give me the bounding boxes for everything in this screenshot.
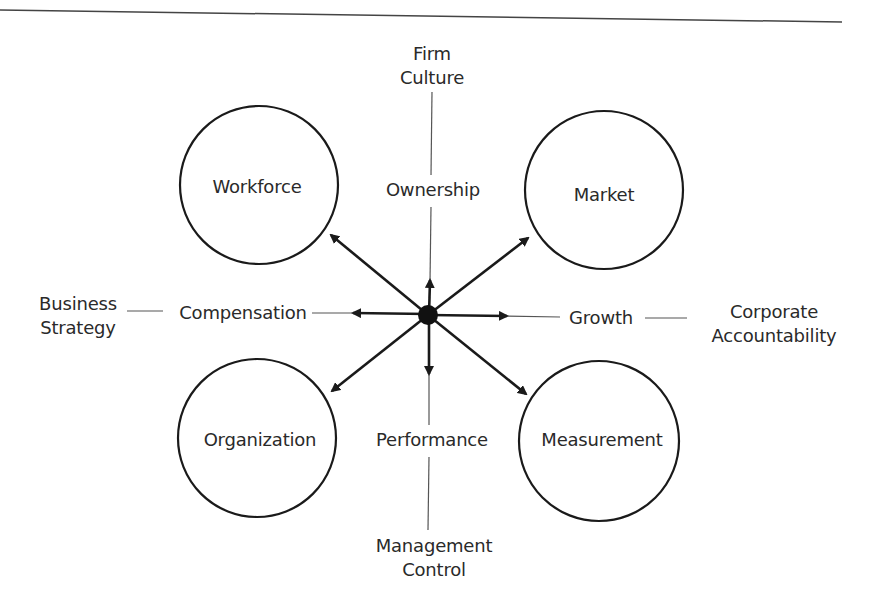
label-compensation: Compensation [179,301,307,325]
label-ownership: Ownership [386,178,480,202]
top-rule [0,10,842,22]
label-market: Market [574,183,635,207]
arrow-left [353,313,428,314]
label-firm-culture-line1: Firm [400,42,464,66]
center-hub [418,305,438,325]
label-workforce: Workforce [212,175,301,199]
label-growth: Growth [569,306,633,330]
label-organization: Organization [204,428,317,452]
label-management-control-line1: Management [376,534,493,558]
label-business-strategy-line1: Business [39,292,117,316]
label-business-strategy: Business Strategy [39,292,117,340]
label-corporate-accountability-line2: Accountability [711,324,836,348]
arrow-up-right [428,238,528,315]
arrow-down-right [428,315,526,394]
connector-performance-control [428,457,429,530]
connector-culture-ownership [431,92,432,175]
label-firm-culture-line2: Culture [400,66,464,90]
connector-hub-growth [505,316,560,317]
label-performance: Performance [376,428,488,452]
label-corporate-accountability: Corporate Accountability [711,300,836,348]
arrow-down-left [332,315,428,391]
label-measurement: Measurement [541,428,662,452]
label-management-control: Management Control [376,534,493,582]
label-business-strategy-line2: Strategy [39,316,117,340]
label-management-control-line2: Control [376,558,493,582]
label-firm-culture: Firm Culture [400,42,464,90]
label-corporate-accountability-line1: Corporate [711,300,836,324]
arrow-right [428,315,507,316]
connector-ownership-hub [430,207,431,282]
diagram-canvas: Workforce Market Organization Measuremen… [0,0,878,610]
arrow-up-left [331,235,428,315]
